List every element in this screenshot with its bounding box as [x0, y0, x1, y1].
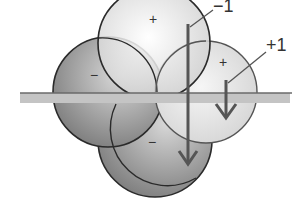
sign-top: + [149, 11, 157, 27]
horizontal-plane [20, 93, 290, 103]
label-plus-one: +1 [266, 35, 287, 55]
orbital-diagram: + − + − −1 +1 [0, 0, 307, 208]
sign-left: − [90, 67, 98, 83]
sign-right: + [219, 54, 227, 70]
sign-bottom: − [148, 134, 156, 150]
label-minus-one: −1 [213, 0, 234, 16]
